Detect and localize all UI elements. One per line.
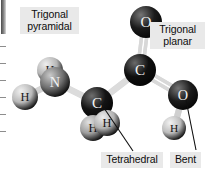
label-trigonal-planar: Trigonal planar: [150, 22, 205, 49]
edge-tick-0: [0, 46, 6, 47]
atom-c-carboxyl: C: [124, 54, 156, 86]
atom-h-hydroxyl: H: [162, 116, 186, 140]
atom-label-h-hydroxyl: H: [170, 122, 178, 134]
atom-h-amine-left: H: [12, 84, 38, 110]
molecule-diagram: HHNCHHCOOH Trigonal pyramidal Trigonal p…: [0, 0, 210, 177]
edge-tick-4: [0, 114, 6, 115]
edge-tick-2: [0, 80, 6, 81]
atom-label-c-carboxyl: C: [135, 61, 145, 78]
label-trigonal-pyramidal: Trigonal pyramidal: [20, 7, 79, 34]
label-tetrahedral: Tetrahedral: [101, 152, 163, 168]
atom-label-c-alpha: C: [92, 94, 102, 111]
atom-h-alpha-right: H: [94, 110, 120, 136]
page-edge-bar: [1, 0, 6, 34]
edge-tick-5: [0, 131, 6, 132]
atom-label-n-amine: N: [50, 74, 60, 90]
atom-label-h-alpha-right: H: [103, 116, 112, 130]
edge-tick-3: [0, 97, 6, 98]
atom-label-h-amine-left: H: [21, 90, 30, 104]
atom-o-hydroxyl: O: [168, 80, 198, 110]
edge-tick-1: [0, 63, 6, 64]
atom-n-amine: N: [40, 67, 70, 97]
label-bent: Bent: [170, 152, 201, 168]
